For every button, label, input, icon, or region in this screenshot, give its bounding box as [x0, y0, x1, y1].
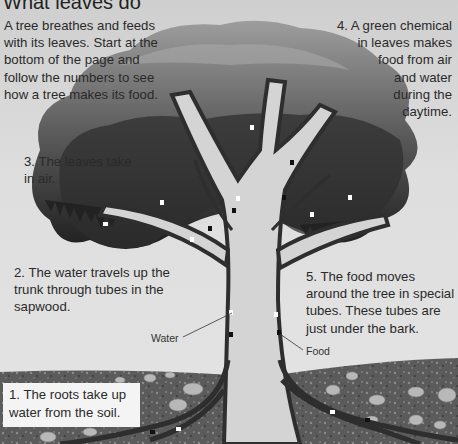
- intro-text: A tree breathes and feeds with its leave…: [4, 17, 159, 103]
- step-4-line: in leaves makes: [252, 34, 452, 51]
- step-4-line: during the: [252, 86, 452, 103]
- water-callout-line: [183, 313, 232, 337]
- step-4-line: food from air: [252, 51, 452, 68]
- step-2-text: 2. The water travels up the trunk throug…: [14, 264, 174, 316]
- page-title: What leaves do: [3, 0, 141, 14]
- step-4-line: daytime.: [252, 103, 452, 120]
- step-4-text: 4. A green chemical in leaves makes food…: [252, 17, 452, 120]
- diagram-page: What leaves do A tree breathes and feeds…: [0, 0, 458, 444]
- step-4-line: 4. A green chemical: [252, 17, 452, 34]
- food-callout-line: [280, 334, 303, 350]
- water-label: Water: [151, 332, 179, 344]
- food-label: Food: [306, 345, 330, 357]
- step-3-text: 3. The leaves take in air.: [24, 153, 134, 187]
- step-1-box: 1. The roots take up water from the soil…: [3, 383, 140, 427]
- step-5-text: 5. The food moves around the tree in spe…: [306, 268, 456, 337]
- step-4-line: and water: [252, 69, 452, 86]
